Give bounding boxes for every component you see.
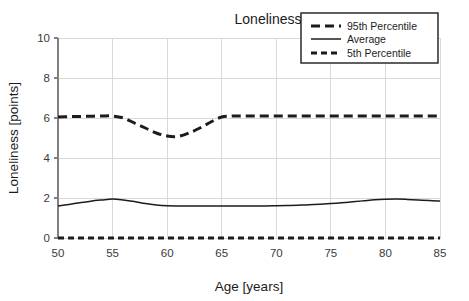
chart-canvas: 0246810 5055606570758085 Loneliness Age … bbox=[0, 0, 469, 301]
y-tick-label: 8 bbox=[44, 72, 50, 84]
x-axis-title: Age [years] bbox=[215, 279, 283, 294]
x-tick-label: 55 bbox=[106, 247, 119, 259]
y-tick-label: 6 bbox=[44, 112, 50, 124]
legend-label: Average bbox=[347, 33, 386, 45]
x-tick-label: 65 bbox=[215, 247, 228, 259]
legend-label: 5th Percentile bbox=[347, 47, 411, 59]
x-tick-label: 70 bbox=[270, 247, 283, 259]
x-tick-label: 60 bbox=[161, 247, 174, 259]
legend-label: 95th Percentile bbox=[347, 20, 417, 32]
x-tick-label: 50 bbox=[52, 247, 65, 259]
chart-title: Loneliness bbox=[235, 11, 302, 27]
y-tick-label: 10 bbox=[37, 32, 50, 44]
chart-legend: 95th PercentileAverage5th Percentile bbox=[301, 13, 438, 63]
x-tick-label: 80 bbox=[379, 247, 392, 259]
x-tick-label: 75 bbox=[324, 247, 337, 259]
y-tick-label: 4 bbox=[44, 152, 51, 164]
loneliness-chart: 0246810 5055606570758085 Loneliness Age … bbox=[0, 0, 469, 301]
x-tick-label: 85 bbox=[434, 247, 447, 259]
y-tick-label: 0 bbox=[44, 232, 50, 244]
y-tick-label: 2 bbox=[44, 192, 50, 204]
y-axis-title: Loneliness [points] bbox=[6, 82, 21, 194]
